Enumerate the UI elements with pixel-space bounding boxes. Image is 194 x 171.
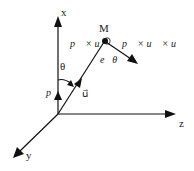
- y-axis-label: y: [26, 149, 32, 161]
- e-theta-label: e⃗θ: [100, 54, 117, 65]
- p-cross-u-label: p⃗ × u⃗: [69, 38, 107, 49]
- dipole-diagram: x z y M p⃗ × u⃗ p⃗ × u⃗ × u⃗ e⃗θ θ p⃗ u⃗: [0, 0, 194, 171]
- u-vector-label: u⃗: [82, 88, 88, 99]
- p-cross-u-cross-u-arrowhead: [127, 54, 138, 64]
- y-axis: [20, 114, 58, 151]
- p-vector-label: p⃗: [45, 87, 59, 98]
- position-line: [58, 42, 104, 114]
- p-cross-u-cross-u-label: p⃗ × u⃗ × u⃗: [121, 38, 184, 49]
- z-axis-label: z: [179, 117, 184, 129]
- z-axis-arrowhead: [165, 110, 176, 118]
- x-axis-label: x: [61, 6, 67, 18]
- theta-label: θ: [60, 60, 65, 72]
- point-M-label: M: [99, 22, 109, 34]
